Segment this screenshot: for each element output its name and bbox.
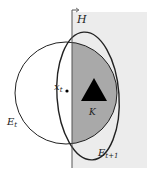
- ellipsoid-diagram: H xt K Et Et+1: [0, 0, 147, 180]
- label-k: K: [88, 107, 97, 117]
- label-h: H: [76, 13, 87, 26]
- label-et: Et: [6, 116, 17, 129]
- label-xt: xt: [54, 81, 63, 94]
- center-point: [65, 89, 68, 92]
